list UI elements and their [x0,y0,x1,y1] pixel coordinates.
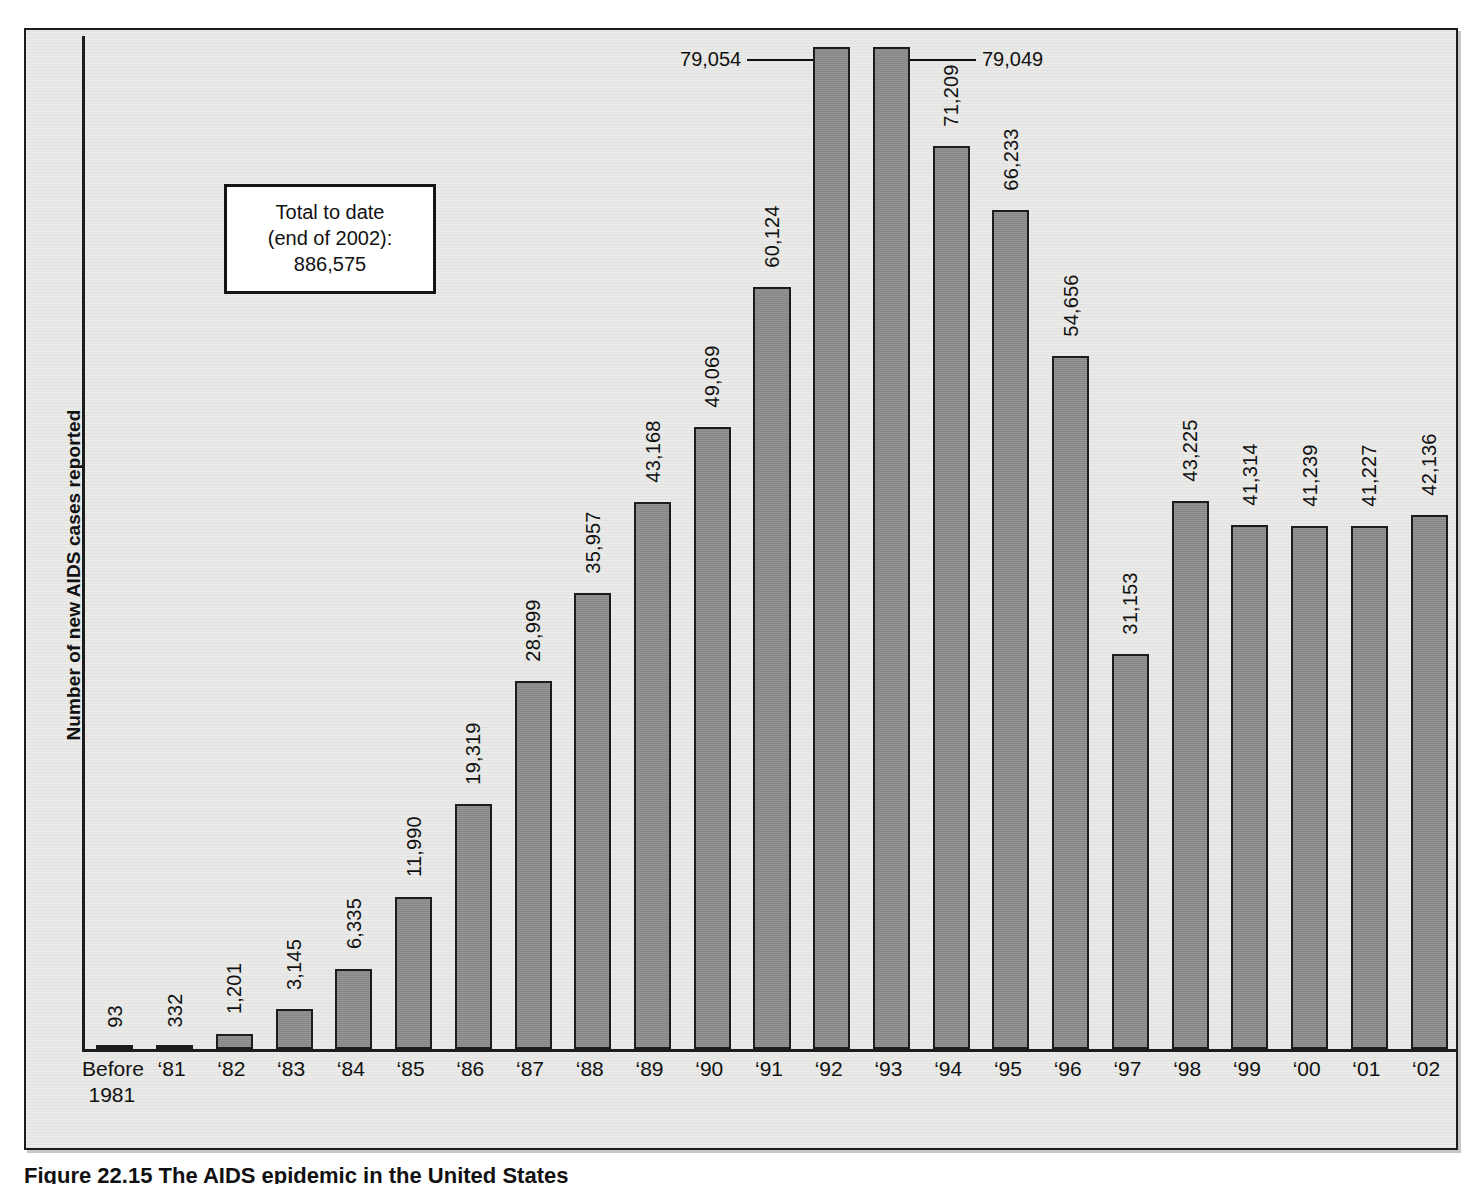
x-axis-tick-line-1: ‘84 [321,1056,381,1082]
bar-value-label: 42,136 [1418,433,1441,495]
bar-value-label: 11,990 [402,816,425,877]
bar-group: 19,319 [455,36,492,1049]
bar-group: 41,227 [1351,36,1388,1049]
total-line-1: Total to date [233,199,427,225]
x-axis-tick: ‘92 [799,1056,859,1082]
bar-value-label: 54,656 [1059,275,1082,337]
x-axis-tick: ‘94 [918,1056,978,1082]
bar-value-label: 49,069 [701,345,724,407]
bar-value-label: 43,225 [1179,419,1202,481]
bar-group: 332 [156,36,193,1049]
x-axis-tick-line-1: ‘94 [918,1056,978,1082]
x-axis-tick-line-1: ‘86 [440,1056,500,1082]
bar [1231,525,1268,1049]
bar-value-label: 19,319 [462,722,485,784]
bar [395,897,432,1049]
bar-value-label: 60,124 [760,205,783,267]
bar-group: 93 [96,36,133,1049]
x-axis-tick-line-1: ‘97 [1098,1056,1158,1082]
bar-group: 49,069 [694,36,731,1049]
x-axis-tick-line-1: ‘88 [560,1056,620,1082]
x-axis-tick-line-2: 1981 [82,1082,142,1108]
x-axis-tick-line-1: ‘00 [1277,1056,1337,1082]
x-axis-tick: ‘84 [321,1056,381,1082]
bar-value-label: 332 [163,994,186,1028]
x-axis-tick: ‘85 [381,1056,441,1082]
x-axis-tick: ‘87 [500,1056,560,1082]
x-axis-tick-line-1: ‘82 [201,1056,261,1082]
callout-leader-line [747,59,813,61]
x-axis-tick-line-1: ‘98 [1157,1056,1217,1082]
x-axis-tick: ‘95 [978,1056,1038,1082]
x-axis-tick: Before1981 [82,1056,142,1108]
x-axis-tick: ‘93 [859,1056,919,1082]
bar-value-label: 43,168 [641,420,664,482]
bar-value-label: 6,335 [342,898,365,949]
bar [574,593,611,1049]
bar-value-label: 41,314 [1238,444,1261,506]
bar-value-label: 3,145 [283,939,306,990]
x-axis-tick: ‘91 [739,1056,799,1082]
bar [276,1009,313,1049]
x-axis-tick: ‘89 [620,1056,680,1082]
total-to-date-annotation: Total to date (end of 2002): 886,575 [224,184,436,294]
x-axis-tick: ‘88 [560,1056,620,1082]
x-axis-tick-line-1: ‘93 [859,1056,919,1082]
x-axis-tick-line-1: ‘99 [1217,1056,1277,1082]
bar-value-label: 35,957 [581,512,604,574]
bar [1052,356,1089,1049]
total-line-3: 886,575 [233,251,427,277]
x-axis-tick-line-1: ‘90 [679,1056,739,1082]
bar-group: 28,999 [515,36,552,1049]
bar [634,502,671,1049]
x-axis-tick-line-1: ‘81 [142,1056,202,1082]
total-line-2: (end of 2002): [233,225,427,251]
bar-group: 79,054 [813,36,850,1049]
x-axis-tick-line-1: ‘96 [1038,1056,1098,1082]
bar-value-label: 71,209 [940,65,963,127]
bar [753,287,790,1049]
bar-value-label: 28,999 [522,600,545,662]
x-axis-tick-line-1: ‘87 [500,1056,560,1082]
bar-group: 66,233 [992,36,1029,1049]
bar [873,47,910,1049]
bar-group: 60,124 [753,36,790,1049]
x-axis-tick-line-1: ‘89 [620,1056,680,1082]
bar-value-label: 41,239 [1298,445,1321,507]
bar [156,1045,193,1049]
x-axis-tick: ‘01 [1337,1056,1397,1082]
bar [813,47,850,1049]
bar-group: 71,209 [933,36,970,1049]
x-axis-tick: ‘82 [201,1056,261,1082]
x-axis-tick: ‘02 [1396,1056,1456,1082]
bar-value-callout: 79,054 [680,48,813,71]
bar-group: 41,239 [1291,36,1328,1049]
x-axis-tick: ‘81 [142,1056,202,1082]
bar [694,427,731,1049]
x-axis-tick-line-1: ‘01 [1337,1056,1397,1082]
bar-group: 43,225 [1172,36,1209,1049]
x-axis-tick-line-1: ‘91 [739,1056,799,1082]
bar [455,804,492,1049]
x-axis-tick: ‘86 [440,1056,500,1082]
bar [1172,501,1209,1049]
bar-group: 43,168 [634,36,671,1049]
bar [1411,515,1448,1049]
bar [933,146,970,1049]
bar-value-label: 41,227 [1358,445,1381,507]
figure-caption: Figure 22.15 The AIDS epidemic in the Un… [24,1163,1324,1184]
bar [515,681,552,1049]
bar [1291,526,1328,1049]
x-axis-tick: ‘90 [679,1056,739,1082]
x-axis-tick: ‘99 [1217,1056,1277,1082]
figure-outer-frame: Number of new AIDS cases reported 933321… [24,28,1458,1150]
bar-value-label: 31,153 [1119,572,1142,634]
x-axis-tick-labels: Before1981‘81‘82‘83‘84‘85‘86‘87‘88‘89‘90… [82,1056,1456,1136]
bar [1112,654,1149,1049]
x-axis-tick-line-1: ‘83 [261,1056,321,1082]
x-axis-tick: ‘96 [1038,1056,1098,1082]
bar-group: 31,153 [1112,36,1149,1049]
bar-value-label: 66,233 [999,128,1022,190]
bar-group: 42,136 [1411,36,1448,1049]
figure-root: Number of new AIDS cases reported 933321… [0,0,1484,1184]
